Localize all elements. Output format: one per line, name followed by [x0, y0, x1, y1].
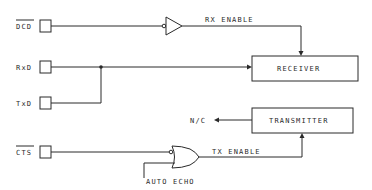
receiver-label: RECEIVER	[277, 65, 320, 73]
txd-wire	[51, 67, 101, 103]
rx-enable-wire	[182, 26, 301, 52]
arrow-down-icon	[299, 51, 304, 56]
pin-label-cts: CTS	[16, 149, 32, 157]
nc-label: N/C	[190, 117, 206, 125]
tx-enable-label: TX ENABLE	[212, 148, 261, 156]
pin-label-rxd: RxD	[16, 64, 32, 72]
pin-box-dcd	[40, 20, 51, 32]
pin-box-rxd	[40, 61, 51, 73]
pin-label-txd: TxD	[16, 100, 32, 108]
arrow-up-icon	[300, 133, 305, 138]
pin-label-dcd: DCD	[16, 23, 32, 31]
transmitter-label: TRANSMITTER	[269, 117, 329, 125]
diagram-canvas: DCD RxD TxD CTS RX ENABLE RECEIVER TRANS…	[0, 0, 372, 190]
or-inversion-bubble	[169, 150, 173, 154]
auto-echo-wire	[144, 163, 175, 178]
pin-box-cts	[40, 146, 51, 158]
auto-echo-label: AUTO ECHO	[146, 178, 195, 186]
arrow-left-icon	[214, 118, 219, 123]
buffer-inversion-bubble	[162, 24, 166, 28]
pin-box-txd	[40, 97, 51, 109]
arrow-right-icon	[247, 65, 252, 70]
rx-enable-label: RX ENABLE	[205, 16, 254, 24]
buffer-gate-icon	[166, 17, 182, 35]
or-gate-icon	[172, 146, 199, 168]
